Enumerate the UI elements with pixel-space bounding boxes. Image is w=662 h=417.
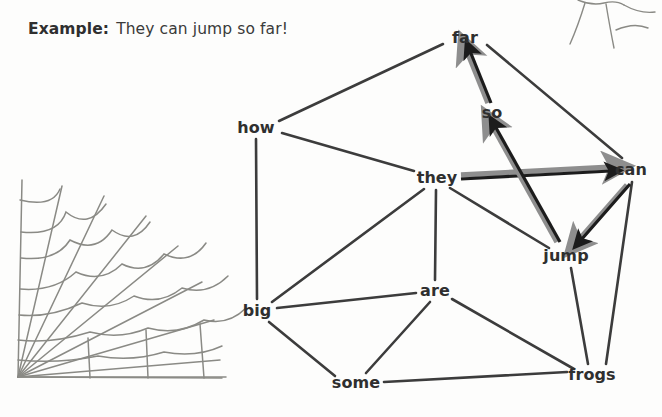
node-far[interactable]: far [452, 30, 478, 46]
arrow-jump-so [495, 126, 560, 242]
edge-how-big [256, 139, 257, 299]
edge-some-some-frogs [384, 372, 567, 382]
arrow-jump-so-shadow [492, 125, 557, 242]
edge-big-are [277, 293, 416, 308]
sentence-path-arrows [461, 51, 630, 242]
node-big[interactable]: big [243, 303, 272, 319]
edge-jump-frogs [571, 268, 588, 364]
node-they[interactable]: they [417, 170, 458, 186]
spider-web-bottom-left-icon [18, 180, 246, 378]
graph-edges [256, 44, 632, 382]
diagram-canvas: Example:They can jump so far! [0, 0, 662, 417]
edge-are-frogs [452, 299, 574, 369]
node-some[interactable]: some [332, 375, 380, 391]
edge-big-some [269, 322, 335, 376]
arrow-so-far-shadow [467, 51, 488, 103]
edge-big-they [272, 189, 424, 302]
node-can[interactable]: can [615, 162, 647, 178]
graph-svg [0, 0, 662, 417]
edge-far-can [487, 45, 622, 158]
arrow-can-jump [581, 184, 630, 240]
node-how[interactable]: how [237, 120, 274, 136]
node-so[interactable]: so [482, 105, 503, 121]
edge-how-they [282, 133, 414, 171]
edge-they-are [435, 190, 436, 280]
node-are[interactable]: are [420, 283, 450, 299]
node-frogs[interactable]: frogs [568, 367, 615, 383]
node-jump[interactable]: jump [543, 248, 588, 264]
edge-are-some [366, 302, 430, 373]
spider-web-top-right-icon [570, 0, 655, 48]
arrow-so-far [470, 51, 491, 103]
edge-how-far [279, 44, 443, 121]
